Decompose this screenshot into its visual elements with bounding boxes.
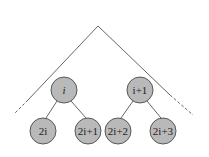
node-label: 2i+3 xyxy=(153,125,174,137)
node-2i-plus-2: 2i+2 xyxy=(105,118,131,144)
node-i: i xyxy=(51,77,77,103)
node-2i-plus-1: 2i+1 xyxy=(75,118,101,144)
edge-i-2i xyxy=(46,101,57,118)
node-i-plus-1: i+1 xyxy=(127,77,153,103)
edge-i+1-2i+3 xyxy=(147,101,161,118)
node-label: 2i+2 xyxy=(108,125,128,137)
node-2i-plus-3: 2i+3 xyxy=(150,118,176,144)
node-label: 2i+1 xyxy=(78,125,98,137)
node-2i: 2i xyxy=(30,118,56,144)
heap-tree-diagram: i i+1 2i 2i+1 2i+2 2i+3 xyxy=(0,0,209,157)
tree-outline-left-dashed xyxy=(14,100,28,114)
node-label: 2i xyxy=(39,125,48,137)
edge-i-2i+1 xyxy=(71,101,86,118)
tree-outline-right-dashed xyxy=(170,95,193,115)
edge-i+1-2i+2 xyxy=(121,101,133,118)
node-label: i+1 xyxy=(133,84,148,96)
node-label: i xyxy=(62,84,65,96)
